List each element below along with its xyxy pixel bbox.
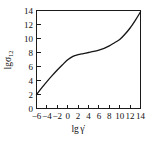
flow-curve-chart: 0 2 4 6 8 10 12 14 −6 −4 −2 0 2 4 6 8 10… <box>0 0 153 141</box>
x-axis-title-symbol: γ̇ <box>79 124 85 134</box>
x-tick-label: 0 <box>65 111 70 121</box>
y-tick-labels: 0 2 4 6 8 10 12 14 <box>24 6 34 114</box>
x-tick-label: −2 <box>53 111 63 121</box>
x-tick-label: −6 <box>32 111 42 121</box>
plot-frame <box>37 11 141 109</box>
y-tick-label: 8 <box>29 48 34 58</box>
x-tick-label: 6 <box>97 111 102 121</box>
x-tick-label: 8 <box>107 111 112 121</box>
y-tick-label: 10 <box>24 34 34 44</box>
data-series-group <box>37 12 141 95</box>
flow-curve-line <box>37 12 141 95</box>
x-axis-ticks <box>37 105 141 109</box>
x-axis-title-main: lg <box>71 124 79 134</box>
x-tick-labels: −6 −4 −2 0 2 4 6 8 10 12 14 <box>32 111 146 121</box>
x-tick-label: 14 <box>136 111 146 121</box>
svg-text:lgγ̇: lgγ̇ <box>71 124 85 134</box>
x-tick-label: 12 <box>126 111 135 121</box>
y-axis-title-subscript: 12 <box>7 50 14 57</box>
y-axis-title: lgσ12 <box>3 50 14 69</box>
y-tick-label: 12 <box>24 20 33 30</box>
x-tick-label: 4 <box>86 111 91 121</box>
x-tick-label: 10 <box>115 111 125 121</box>
x-axis-title: lgγ̇ <box>71 124 85 134</box>
y-axis-title-main: lgσ <box>3 57 13 70</box>
y-tick-label: 2 <box>29 90 34 100</box>
svg-text:lgσ12: lgσ12 <box>3 50 14 69</box>
y-tick-label: 4 <box>29 76 34 86</box>
chart-figure: 0 2 4 6 8 10 12 14 −6 −4 −2 0 2 4 6 8 10… <box>0 0 153 141</box>
y-tick-label: 6 <box>29 62 34 72</box>
x-tick-label: 2 <box>76 111 81 121</box>
x-tick-label: −4 <box>42 111 52 121</box>
y-tick-label: 14 <box>24 6 34 16</box>
